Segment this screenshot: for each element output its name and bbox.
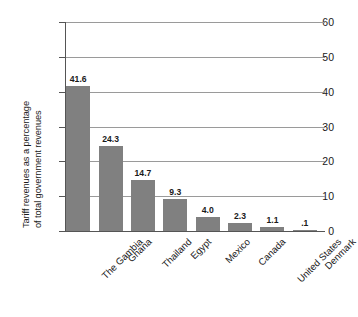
bar-value-label: 41.6 [70,74,87,84]
bar-value-label: .1 [301,218,308,228]
x-axis-label: Mexico [223,236,252,265]
bar[interactable] [196,217,220,231]
x-axis-label: Canada [256,236,288,268]
bar[interactable] [228,223,252,231]
bar[interactable] [293,230,317,231]
gridline-30 [66,127,325,128]
bar-value-label: 4.0 [202,205,214,215]
y-tick-30 [59,127,65,128]
bar[interactable] [163,199,187,231]
gridline-0 [66,231,325,232]
y-axis-title-line-2: of total government revenues [33,110,43,228]
bar-value-label: 14.7 [135,168,152,178]
y-tick-60 [59,22,65,23]
bar[interactable] [66,86,90,231]
plot-area: 41.624.314.79.34.02.31.1.1 [66,22,325,231]
x-axis-label: Egypt [189,236,214,261]
bar-value-label: 9.3 [169,187,181,197]
bar-value-label: 2.3 [234,211,246,221]
bar[interactable] [131,180,155,231]
y-tick-20 [59,161,65,162]
y-axis-title-line-1: Tariff revenues as a percentage [21,101,31,228]
y-axis-title: Tariff revenues as a percentage of total… [0,0,44,240]
bar-value-label: 1.1 [266,215,278,225]
bar[interactable] [99,146,123,231]
gridline-60 [66,22,325,23]
gridline-50 [66,57,325,58]
bar[interactable] [260,227,284,231]
y-tick-40 [59,92,65,93]
y-tick-50 [59,57,65,58]
gridline-40 [66,92,325,93]
y-tick-10 [59,196,65,197]
bar-value-label: 24.3 [102,134,119,144]
y-tick-0 [59,231,65,232]
